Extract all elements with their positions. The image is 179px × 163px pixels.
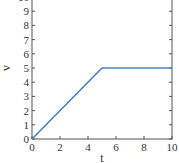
x-tick-label: 4 [85, 141, 91, 153]
y-tick-label: 6 [24, 48, 30, 60]
y-axis-label: v [0, 65, 13, 71]
y-tick-label: 8 [24, 19, 30, 31]
x-tick-label: 0 [29, 141, 35, 153]
x-tick-label: 2 [57, 141, 63, 153]
y-tick-label: 5 [24, 62, 30, 74]
y-tick-label: 2 [24, 105, 30, 117]
y-axis-ticks: 012345678910 [18, 0, 172, 145]
y-tick-label: 7 [24, 34, 30, 46]
y-tick-label: 1 [24, 119, 30, 131]
data-series [32, 68, 172, 139]
x-axis-label: t [100, 151, 104, 163]
x-tick-label: 10 [167, 141, 179, 153]
y-tick-label: 9 [24, 5, 30, 17]
y-tick-label: 10 [18, 0, 30, 3]
x-tick-label: 8 [141, 141, 147, 153]
x-tick-label: 6 [113, 141, 119, 153]
line-chart: 012345678910 0246810 t v [0, 0, 178, 163]
y-tick-label: 4 [24, 76, 30, 88]
y-tick-label: 3 [24, 90, 30, 102]
series-line [32, 68, 172, 139]
